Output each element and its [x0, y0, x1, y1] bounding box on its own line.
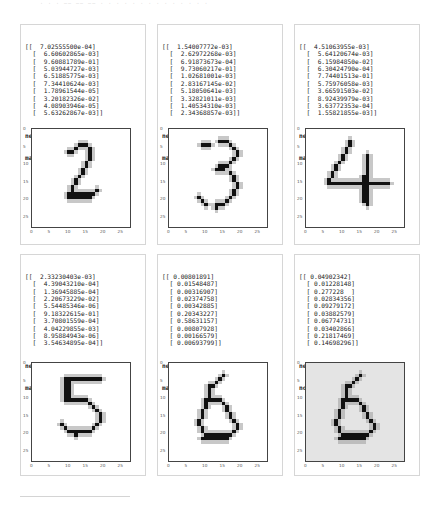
probability-row: [ 3.70801559e-04] [25, 317, 145, 324]
probability-row: [ 3.66591503e-02] [299, 87, 419, 94]
plot-axes [305, 128, 405, 228]
probability-row: [ 5.18050641e-03] [162, 87, 282, 94]
x-tick-label: 10 [202, 463, 207, 468]
y-tick-label: 0 [297, 360, 300, 365]
output-panel: [[ 7.02555500e-04] [ 6.60602865e-03] [ 9… [20, 24, 146, 245]
y-tick-label: 20 [23, 196, 28, 201]
probability-row: [ 0.02374758] [162, 295, 282, 302]
y-tick-label: 0 [160, 360, 163, 365]
probability-row: [ 0.21817469] [299, 332, 419, 339]
x-tick-label: 15 [220, 463, 225, 468]
y-tick-label: 15 [297, 179, 302, 184]
y-tick-label: 5 [297, 144, 300, 149]
probability-row: [ 0.277228 ] [299, 288, 419, 295]
probability-vector: [[ 7.02555500e-04] [ 6.60602865e-03] [ 9… [25, 43, 145, 117]
output-panel: [[ 0.04902342] [ 0.01228148] [ 0.277228 … [294, 254, 420, 476]
y-tick-label: 10 [160, 395, 165, 400]
x-tick-label: 20 [100, 463, 105, 468]
probability-row: [ 0.01228148] [299, 280, 419, 287]
probability-row: [ 0.14698296]] [299, 339, 419, 346]
probability-row: [ 9.73060217e-01] [162, 65, 282, 72]
x-tick-label: 5 [185, 229, 188, 234]
digit-pixel-grid [169, 363, 267, 461]
y-tick-label: 15 [160, 413, 165, 418]
x-tick-label: 15 [357, 463, 362, 468]
probability-row: [[ 7.02555500e-04] [25, 43, 145, 50]
probability-row: [ 0.09279172] [299, 302, 419, 309]
x-tick-label: 10 [65, 229, 70, 234]
y-tick-label: 0 [160, 126, 163, 131]
y-tick-label: 25 [297, 448, 302, 453]
probability-row: [ 5.54485346e-06] [25, 302, 145, 309]
probability-row: [ 5.75976058e-03] [299, 80, 419, 87]
y-tick-label: 10 [297, 395, 302, 400]
x-tick-label: 25 [255, 463, 260, 468]
x-tick-label: 15 [220, 229, 225, 234]
probability-row: [ 6.30424790e-04] [299, 65, 419, 72]
probability-row: [ 1.55821855e-03]] [299, 109, 419, 116]
probability-vector: [[ 2.33230403e-03] [ 4.39043210e-04] [ 1… [25, 273, 145, 347]
probability-row: [ 0.03402866] [299, 325, 419, 332]
plot-axes [31, 362, 131, 462]
probability-row: [ 0.01548487] [162, 280, 282, 287]
x-tick-label: 0 [30, 229, 33, 234]
plot-axes [305, 362, 405, 462]
x-tick-label: 25 [255, 229, 260, 234]
digit-image-plot: 05101520250510152025 [168, 128, 272, 232]
y-tick-label: 10 [23, 161, 28, 166]
probability-row: [ 3.20182326e-02] [25, 95, 145, 102]
y-tick-label: 0 [23, 126, 26, 131]
probability-row: [[ 1.54007772e-03] [162, 43, 282, 50]
y-tick-label: 10 [160, 161, 165, 166]
probability-row: [ 0.06774731] [299, 317, 419, 324]
y-tick-label: 5 [23, 378, 26, 383]
probability-row: [[ 0.04902342] [299, 273, 419, 280]
probability-row: [ 2.20673229e-02] [25, 295, 145, 302]
y-tick-label: 5 [297, 378, 300, 383]
probability-row: [ 0.20343227] [162, 310, 282, 317]
probability-row: [[ 4.51063955e-03] [299, 43, 419, 50]
x-tick-label: 0 [304, 229, 307, 234]
divider [20, 496, 130, 497]
probability-vector: [[ 0.00801891] [ 0.01548487] [ 0.0031690… [162, 273, 282, 347]
x-tick-label: 25 [392, 229, 397, 234]
output-panel: [[ 1.54007772e-03] [ 2.62972268e-03] [ 6… [157, 24, 283, 245]
probability-row: [ 3.63772353e-04] [299, 102, 419, 109]
y-tick-label: 5 [23, 144, 26, 149]
y-tick-label: 20 [297, 196, 302, 201]
y-tick-label: 20 [297, 430, 302, 435]
digit-image-plot: 05101520250510152025 [168, 362, 272, 466]
digit-image-plot: 05101520250510152025 [305, 128, 409, 232]
probability-row: [ 6.60602865e-03] [25, 50, 145, 57]
x-tick-label: 10 [65, 463, 70, 468]
probability-vector: [[ 4.51063955e-03] [ 5.64120674e-03] [ 6… [299, 43, 419, 117]
probability-row: [ 1.40534310e-03] [162, 102, 282, 109]
probability-row: [ 9.18322615e-01] [25, 310, 145, 317]
probability-row: [ 0.03882579] [299, 310, 419, 317]
probability-row: [ 2.83167145e-02] [162, 80, 282, 87]
probability-row: [ 3.32821011e-03] [162, 95, 282, 102]
probability-row: [ 5.03944727e-03] [25, 65, 145, 72]
x-tick-label: 5 [322, 229, 325, 234]
digit-pixel-grid [306, 363, 404, 461]
y-tick-label: 15 [23, 179, 28, 184]
output-panel: [[ 0.00801891] [ 0.01548487] [ 0.0031690… [157, 254, 283, 476]
y-tick-label: 10 [297, 161, 302, 166]
probability-row: [ 6.15984850e-02] [299, 58, 419, 65]
probability-row: [ 1.78961544e-05] [25, 87, 145, 94]
probability-row: [ 0.00693799]] [162, 339, 282, 346]
probability-row: [ 5.63262867e-03]] [25, 109, 145, 116]
x-tick-label: 15 [83, 463, 88, 468]
y-tick-label: 20 [160, 430, 165, 435]
x-tick-label: 10 [339, 229, 344, 234]
y-tick-label: 25 [23, 448, 28, 453]
y-tick-label: 0 [297, 126, 300, 131]
probability-row: [ 2.34368857e-03]] [162, 109, 282, 116]
x-tick-label: 0 [167, 463, 170, 468]
probability-row: [ 6.91873673e-04] [162, 58, 282, 65]
y-tick-label: 15 [160, 179, 165, 184]
probability-row: [ 0.00166579] [162, 332, 282, 339]
digit-pixel-grid [32, 129, 130, 227]
probability-row: [ 4.04229855e-03] [25, 325, 145, 332]
probability-row: [ 9.60881789e-01] [25, 58, 145, 65]
